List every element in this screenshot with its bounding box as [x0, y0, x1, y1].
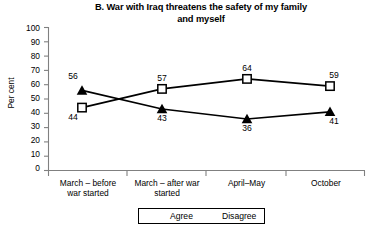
series-line-disagree — [82, 79, 330, 108]
y-tick-marks — [44, 28, 49, 171]
point-label-disagree-3: 59 — [322, 71, 346, 80]
legend-item-disagree: Disagree — [222, 211, 256, 221]
x-tick-label-0: March – before war started — [50, 178, 126, 198]
x-tick-label-2-line-1: April–May — [207, 178, 286, 188]
point-label-agree-1: 43 — [150, 114, 174, 123]
x-tick-label-1-line-1: March – after war — [128, 178, 206, 188]
x-tick-label-1: March – after war started — [128, 178, 206, 198]
point-label-disagree-1: 57 — [150, 74, 174, 83]
x-tick-label-0-line-2: war started — [50, 188, 126, 198]
point-label-disagree-0: 44 — [61, 113, 85, 122]
x-tick-label-2: April–May — [207, 178, 286, 188]
series-markers-agree — [77, 85, 336, 123]
x-tick-label-3: October — [287, 178, 365, 188]
plot-area — [0, 0, 373, 234]
series-markers-disagree — [78, 75, 334, 112]
legend-item-agree: Agree — [170, 211, 193, 221]
chart-container: B. War with Iraq threatens the safety of… — [0, 0, 373, 234]
x-tick-label-1-line-2: started — [128, 188, 206, 198]
point-label-agree-2: 36 — [235, 124, 259, 133]
point-label-agree-0: 56 — [61, 72, 85, 81]
x-tick-label-0-line-1: March – before — [50, 178, 126, 188]
point-label-agree-3: 41 — [322, 117, 346, 126]
x-tick-label-3-line-1: October — [287, 178, 365, 188]
x-tick-marks — [49, 171, 365, 177]
series-line-agree — [82, 90, 330, 119]
point-label-disagree-2: 64 — [235, 64, 259, 73]
